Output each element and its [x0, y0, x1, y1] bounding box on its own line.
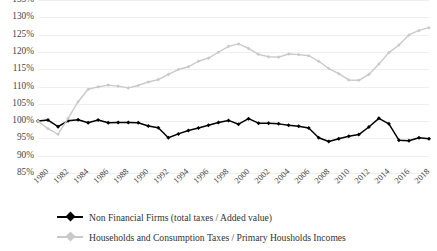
data-point-marker — [287, 52, 291, 56]
data-point-marker — [146, 124, 150, 128]
legend-item-households: Households and Consumption Taxes / Prima… — [0, 227, 437, 247]
series-line-1 — [38, 28, 429, 135]
y-axis-tick-label: 125% — [0, 30, 34, 39]
legend-diamond-0 — [66, 212, 76, 222]
data-point-marker — [267, 121, 271, 125]
data-point-marker — [226, 118, 230, 122]
data-point-marker — [427, 26, 431, 30]
legend-marker-diamond-icon — [57, 211, 83, 223]
data-point-marker — [277, 55, 281, 59]
data-point-marker — [206, 123, 210, 127]
legend-label-1: Households and Consumption Taxes / Prima… — [89, 232, 346, 243]
data-point-marker — [116, 84, 120, 88]
x-axis-tick-label: 1980 — [32, 167, 50, 185]
legend-item-non-financial-firms: Non Financial Firms (total taxes / Added… — [0, 207, 437, 227]
data-point-marker — [136, 84, 140, 88]
y-axis-tick-label: 105% — [0, 99, 34, 108]
y-axis-tick-label: 85% — [0, 168, 34, 177]
data-point-marker — [106, 121, 110, 125]
data-point-marker — [277, 122, 281, 126]
y-axis-tick-label: 130% — [0, 13, 34, 22]
chart-container: 135%130%125%120%115%110%105%100%95%90%85… — [0, 0, 437, 251]
data-point-marker — [267, 55, 271, 59]
data-point-marker — [337, 137, 341, 141]
data-point-marker — [126, 86, 130, 90]
data-point-marker — [116, 120, 120, 124]
data-point-marker — [427, 137, 431, 141]
plot-area — [38, 0, 429, 173]
data-point-marker — [106, 83, 110, 87]
data-point-marker — [297, 53, 301, 57]
y-axis-tick-label: 90% — [0, 151, 34, 160]
data-point-marker — [96, 85, 100, 89]
data-point-marker — [176, 132, 180, 136]
data-point-marker — [347, 134, 351, 138]
data-point-marker — [196, 126, 200, 130]
y-axis-tick-label: 115% — [0, 65, 34, 74]
plot-wrapper: 135%130%125%120%115%110%105%100%95%90%85… — [0, 0, 437, 185]
data-point-marker — [216, 120, 220, 124]
legend-label-0: Non Financial Firms (total taxes / Added… — [89, 212, 272, 223]
data-point-marker — [417, 136, 421, 140]
data-point-marker — [287, 123, 291, 127]
y-axis-labels: 135%130%125%120%115%110%105%100%95%90%85… — [0, 0, 34, 185]
data-point-marker — [407, 139, 411, 143]
series-lines — [38, 0, 429, 173]
data-point-marker — [76, 118, 80, 122]
data-point-marker — [186, 128, 190, 132]
y-axis-tick-label: 100% — [0, 116, 34, 125]
series-line-0 — [38, 118, 429, 141]
y-axis-tick-label: 120% — [0, 47, 34, 56]
data-point-marker — [96, 118, 100, 122]
data-point-marker — [327, 140, 331, 144]
y-axis-tick-label: 110% — [0, 82, 34, 91]
data-point-marker — [136, 121, 140, 125]
data-point-marker — [86, 121, 90, 125]
chart-legend: Non Financial Firms (total taxes / Added… — [0, 207, 437, 247]
x-axis-labels: 1980198219841986198819901992199419961998… — [38, 173, 429, 207]
data-point-marker — [297, 124, 301, 128]
legend-marker-diamond-icon — [57, 231, 83, 243]
data-point-marker — [146, 80, 150, 84]
data-point-marker — [126, 120, 130, 124]
y-axis-tick-label: 135% — [0, 0, 34, 5]
y-axis-tick-label: 95% — [0, 134, 34, 143]
legend-diamond-1 — [66, 232, 76, 242]
